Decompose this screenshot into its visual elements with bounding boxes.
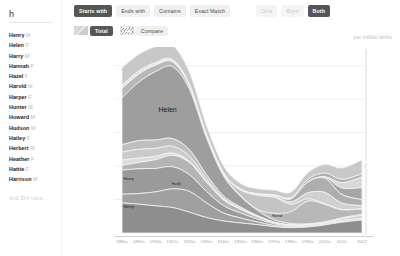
x-tick-label: 1930s	[200, 239, 212, 244]
sex-label: M	[33, 176, 38, 182]
name-label: Hannah	[9, 63, 29, 69]
legend-item-total[interactable]: Total	[74, 26, 113, 36]
more-names-label[interactable]: And 354 more...	[0, 195, 61, 201]
sex-label: M	[28, 83, 33, 89]
name-label: Herbert	[9, 145, 29, 151]
list-item[interactable]: HattieF	[9, 164, 61, 174]
name-voyager-app: h HenryMHelenFHarryMHannahFHazelFHaroldM…	[0, 0, 400, 256]
name-label: Howard	[9, 114, 29, 120]
chart-legend: TotalCompare	[74, 25, 175, 36]
match-mode-exact-match[interactable]: Exact Match	[190, 5, 230, 17]
legend-item-compare[interactable]: Compare	[120, 26, 169, 36]
match-mode-ends-with[interactable]: Ends with	[116, 5, 150, 17]
name-label: Helen	[9, 42, 24, 48]
name-label: Heather	[9, 156, 29, 162]
x-tick-label: 2010	[337, 239, 347, 244]
list-item[interactable]: HowardM	[9, 112, 61, 122]
name-label: Harry	[9, 53, 23, 59]
x-tick-label: 1940s	[217, 239, 229, 244]
x-tick-label: 1910s	[167, 239, 179, 244]
x-tick-label: 2022	[357, 239, 367, 244]
x-tick-label: 1920s	[183, 239, 195, 244]
units-label: per million births	[354, 34, 392, 40]
list-item[interactable]: HaroldM	[9, 81, 61, 91]
list-item[interactable]: HenryM	[9, 30, 61, 40]
sex-label: M	[31, 114, 36, 120]
sex-label: F	[31, 156, 34, 162]
name-label: Harper	[9, 94, 27, 100]
x-tick-label: 1890s	[133, 239, 145, 244]
list-item[interactable]: HudsonM	[9, 123, 61, 133]
sex-label: M	[25, 53, 30, 59]
filter-toolbar: Starts withEnds withContainsExact MatchG…	[74, 5, 392, 17]
sex-label: M	[31, 125, 36, 131]
x-axis: 1880s1890s1900s1910s1920s1930s1940s1950s…	[62, 236, 400, 248]
x-tick-label: 2000s	[319, 239, 331, 244]
chart-svg	[62, 47, 400, 235]
sex-filter-boys[interactable]: Boys	[281, 5, 303, 17]
x-tick-label: 1880s	[116, 239, 128, 244]
list-item[interactable]: HelenF	[9, 40, 61, 50]
stacked-area-chart[interactable]: HelenHarryHenryHaroldHannah	[62, 47, 400, 235]
list-item[interactable]: HunterM	[9, 102, 61, 112]
name-label: Hunter	[9, 104, 27, 110]
area-swatch-icon	[74, 26, 88, 35]
hatch-swatch-icon	[120, 26, 134, 35]
legend-label: Total	[90, 26, 113, 36]
name-label: Henry	[9, 32, 25, 38]
match-mode-contains[interactable]: Contains	[154, 5, 186, 17]
name-label: Harrison	[9, 176, 32, 182]
name-label: Hattie	[9, 166, 24, 172]
x-tick-label: 1950s	[234, 239, 246, 244]
chart-panel: Starts withEnds withContainsExact MatchG…	[62, 0, 400, 256]
x-tick-label: 1990s	[302, 239, 314, 244]
match-mode-starts-with[interactable]: Starts with	[74, 5, 112, 17]
sex-filter-both[interactable]: Both	[308, 5, 330, 17]
sex-filter-girls[interactable]: Girls	[256, 5, 277, 17]
name-label: Hazel	[9, 73, 23, 79]
list-item[interactable]: HerbertM	[9, 143, 61, 153]
sex-label: F	[31, 63, 34, 69]
list-item[interactable]: HaileyF	[9, 133, 61, 143]
sex-label: F	[26, 166, 29, 172]
sex-label: F	[25, 73, 28, 79]
sex-label: F	[25, 42, 28, 48]
sidebar: h HenryMHelenFHarryMHannahFHazelFHaroldM…	[0, 0, 62, 256]
x-axis-line	[114, 236, 374, 237]
list-item[interactable]: HarryM	[9, 51, 61, 61]
sex-label: M	[28, 104, 33, 110]
sex-label: F	[28, 94, 31, 100]
list-item[interactable]: HeatherF	[9, 154, 61, 164]
name-label: Hailey	[9, 135, 25, 141]
list-item[interactable]: HannahF	[9, 61, 61, 71]
sex-label: F	[27, 135, 30, 141]
list-item[interactable]: HarperF	[9, 92, 61, 102]
sex-label: M	[26, 32, 31, 38]
name-label: Harold	[9, 83, 26, 89]
sex-label: M	[30, 145, 35, 151]
x-tick-label: 1970s	[268, 239, 280, 244]
name-list: HenryMHelenFHarryMHannahFHazelFHaroldMHa…	[0, 30, 61, 184]
x-tick-label: 1900s	[150, 239, 162, 244]
list-item[interactable]: HarrisonM	[9, 174, 61, 184]
search-query-text[interactable]: h	[0, 0, 61, 19]
x-tick-label: 1980s	[285, 239, 297, 244]
legend-label: Compare	[136, 26, 169, 36]
list-item[interactable]: HazelF	[9, 71, 61, 81]
query-underline	[9, 22, 53, 23]
x-tick-label: 1960s	[251, 239, 263, 244]
name-label: Hudson	[9, 125, 29, 131]
